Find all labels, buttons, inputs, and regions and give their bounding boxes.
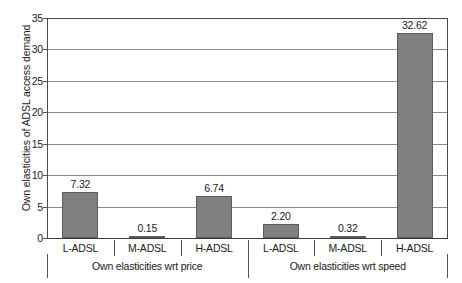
gridline <box>48 175 447 176</box>
x-category-label: H-ADSL <box>179 242 249 254</box>
bar <box>62 192 98 238</box>
y-tick-label: 10 <box>23 170 43 180</box>
bar-value-label: 0.15 <box>117 223 177 234</box>
bar-value-label: 7.32 <box>50 179 110 190</box>
y-tick-label: 15 <box>23 139 43 149</box>
plot-area <box>47 18 448 238</box>
bar <box>330 236 366 239</box>
y-tick-label: 20 <box>23 107 43 117</box>
gridline <box>48 207 447 208</box>
bar-value-label: 0.32 <box>318 223 378 234</box>
y-tick-label: 0 <box>23 233 43 243</box>
bar <box>196 196 232 238</box>
gridline <box>48 49 447 50</box>
x-axis-line <box>47 238 448 239</box>
y-tick-label: 25 <box>23 76 43 86</box>
x-axis-separator-tick <box>314 240 315 256</box>
x-axis-group-band: Own elasticities wrt priceOwn elasticiti… <box>47 256 448 278</box>
bar-value-label: 2.20 <box>251 211 311 222</box>
x-group-label: Own elasticities wrt speed <box>248 260 449 272</box>
y-axis-ticks: 05101520253035 <box>20 0 43 283</box>
gridline <box>48 112 447 113</box>
x-category-label: M-ADSL <box>112 242 182 254</box>
y-tick-label: 30 <box>23 44 43 54</box>
x-axis-separator-tick <box>381 240 382 256</box>
x-category-label: H-ADSL <box>380 242 450 254</box>
x-group-divider <box>248 254 249 278</box>
bar-value-label: 32.62 <box>385 20 445 31</box>
x-axis-separator-tick <box>114 240 115 256</box>
bar <box>263 224 299 238</box>
bar <box>397 33 433 238</box>
x-band-right-edge <box>447 254 448 278</box>
y-tick-label: 5 <box>23 202 43 212</box>
gridline <box>48 81 447 82</box>
x-category-label: L-ADSL <box>45 242 115 254</box>
bar-value-label: 6.74 <box>184 183 244 194</box>
x-band-left-edge <box>47 254 48 278</box>
gridline <box>48 144 447 145</box>
x-group-label: Own elasticities wrt price <box>47 260 248 272</box>
x-category-label: M-ADSL <box>313 242 383 254</box>
x-category-label: L-ADSL <box>246 242 316 254</box>
x-axis-separator-tick <box>181 240 182 256</box>
bar <box>129 236 165 239</box>
bar-chart: Own elasticities of ADSL access demand 0… <box>0 0 462 283</box>
y-tick-label: 35 <box>23 13 43 23</box>
